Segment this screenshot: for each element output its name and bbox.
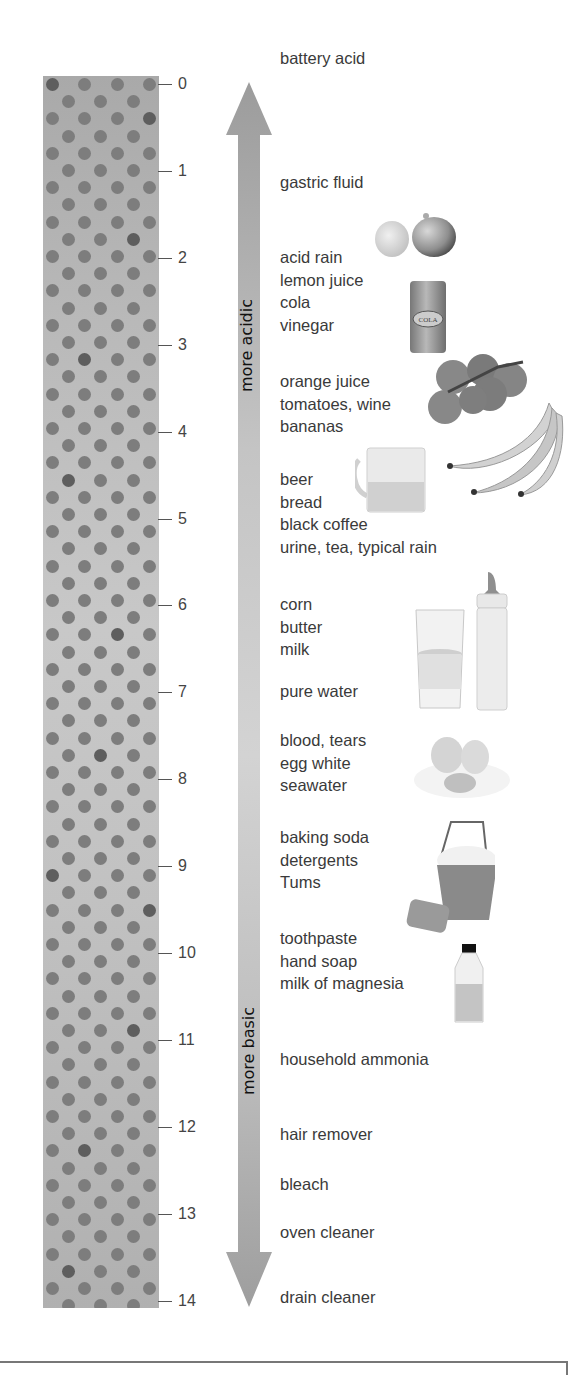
broken-egg-icon [412,735,512,800]
item-line: drain cleaner [280,1286,375,1309]
scale-dot [127,1265,140,1278]
scale-dot [94,1024,107,1037]
scale-dot [62,542,75,555]
scale-dot [127,955,140,968]
scale-dot [46,766,59,779]
lemon-icon [374,210,458,260]
scale-dot [94,955,107,968]
scale-dot [94,1093,107,1106]
scale-dot [62,1058,75,1071]
scale-dot [46,147,59,160]
scale-dot [94,749,107,762]
scale-dot [94,577,107,590]
scale-dot [94,130,107,143]
item-line: cola [280,291,363,314]
item-line: seawater [280,774,366,797]
scale-dot [127,990,140,1003]
cola-can-icon: COLA [408,279,448,355]
scale-dot [78,1248,91,1261]
scale-dot [143,216,156,229]
scale-dot [46,1041,59,1054]
scale-dot [78,525,91,538]
scale-dot [143,147,156,160]
item-group-ph2: acid rain lemon juice cola vinegar [280,246,363,336]
scale-dot [78,388,91,401]
item-line: gastric fluid [280,171,363,194]
scale-dot [127,233,140,246]
scale-dot [127,1299,140,1308]
scale-dot [62,646,75,659]
scale-dot [111,353,124,366]
scale-dot [111,147,124,160]
item-group-ph7-8: blood, tears egg white seawater [280,729,366,797]
scale-dot [111,491,124,504]
scale-dot [111,663,124,676]
scale-dot [111,1248,124,1261]
scale-dot [46,78,59,91]
scale-dot [111,1041,124,1054]
scale-dot [94,1299,107,1308]
scale-dot [94,714,107,727]
scale-dot [62,474,75,487]
scale-dot [78,938,91,951]
scale-dot [111,697,124,710]
tick-label: 10 [178,945,196,961]
scale-dot [127,1058,140,1071]
item-group-ph6: corn butter milk [280,593,322,661]
item-drain-cleaner: drain cleaner [280,1286,375,1309]
scale-dot [78,1076,91,1089]
scale-dot [62,267,75,280]
scale-dot [78,972,91,985]
scale-dot [46,732,59,745]
scale-dot [62,130,75,143]
scale-dot [94,474,107,487]
scale-dot [78,663,91,676]
item-line: milk of magnesia [280,972,404,995]
tick-mark [158,1301,172,1302]
scale-dot [46,112,59,125]
scale-dot [111,1179,124,1192]
scale-dot [143,1248,156,1261]
scale-dot [46,388,59,401]
scale-dot [143,388,156,401]
scale-dot [127,164,140,177]
scale-dot [78,1179,91,1192]
scale-dot [143,800,156,813]
item-line: Tums [280,871,369,894]
scale-dot [78,216,91,229]
tick-label: 4 [178,424,187,440]
scale-dot [127,1162,140,1175]
scale-dot [94,370,107,383]
scale-dot [94,818,107,831]
baby-bottle-icon [474,572,510,712]
scale-dot [46,972,59,985]
scale-dot [94,852,107,865]
scale-dot [143,1041,156,1054]
scale-dot [143,1076,156,1089]
scale-dot [143,353,156,366]
scale-dot [94,1196,107,1209]
scale-dot [78,904,91,917]
scale-dot [46,422,59,435]
scale-dot [78,491,91,504]
svg-text:COLA: COLA [418,316,437,324]
scale-dot [62,1127,75,1140]
scale-dot [143,594,156,607]
more-acidic-label: more acidic [237,299,256,392]
scale-dot [94,680,107,693]
scale-dot [143,938,156,951]
tick-label: 11 [178,1032,195,1048]
scale-dot [78,1144,91,1157]
scale-dot [62,1024,75,1037]
item-line: baking soda [280,826,369,849]
scale-dot [62,783,75,796]
scale-dot [62,990,75,1003]
scale-dot [127,302,140,315]
scale-dot [62,611,75,624]
scale-dot [127,886,140,899]
scale-dot [111,1007,124,1020]
scale-dot [78,422,91,435]
scale-dot [62,714,75,727]
scale-dot [46,216,59,229]
scale-dot [111,1110,124,1123]
